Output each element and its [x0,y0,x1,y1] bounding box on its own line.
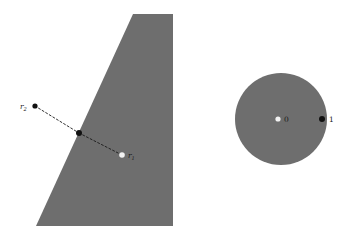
point-disk-center-dot [275,116,280,121]
gray-disk-region [235,73,327,165]
point-r2-dot [32,103,37,108]
point-intersection-dot [76,130,82,136]
label-disk-boundary: 1 [329,115,334,124]
point-r1-dot [119,152,125,158]
geometry-figure: r2 r1 0 1 [0,0,350,238]
figure-canvas: r2 r1 0 1 [0,0,350,238]
point-disk-boundary-dot [319,116,325,122]
label-disk-center: 0 [284,115,289,124]
